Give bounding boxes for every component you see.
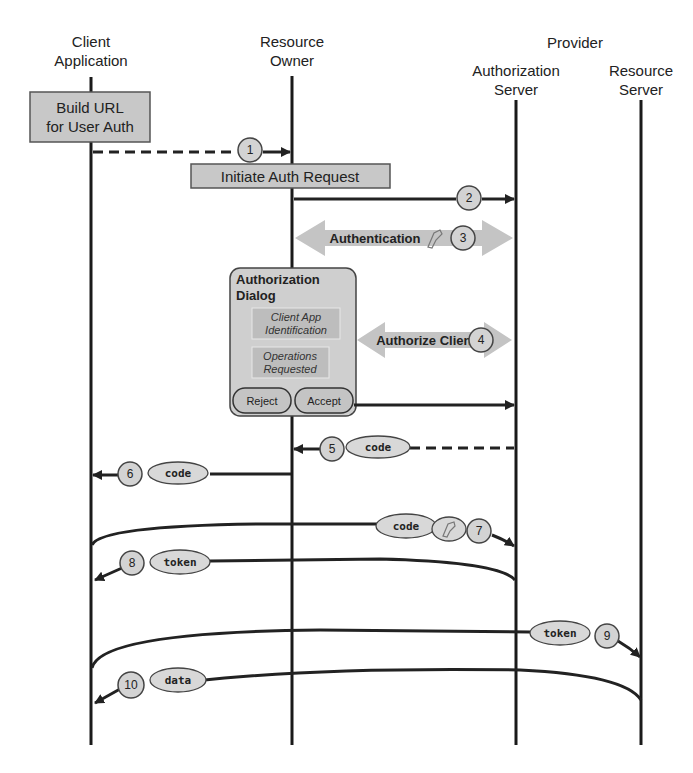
step-6-arrow: 6 code — [93, 462, 291, 486]
payload-code: code — [365, 441, 392, 454]
svg-text:Authentication: Authentication — [330, 231, 421, 246]
step-number: 10 — [124, 678, 138, 692]
step-9-arrow: token 9 — [92, 621, 640, 668]
participant-client-line2: Application — [54, 52, 127, 69]
participant-owner-line1: Resource — [260, 33, 324, 50]
reject-button-label: Reject — [246, 395, 277, 407]
activity-initiate-auth: Initiate Auth Request — [191, 164, 390, 188]
payload-code: code — [393, 520, 420, 533]
dialog-title-line1: Authorization — [236, 272, 320, 287]
accept-button-label: Accept — [307, 395, 341, 407]
field-client-app-line2: Identification — [265, 324, 327, 336]
step-number: 2 — [466, 191, 473, 205]
step-number: 9 — [604, 629, 611, 643]
step-10-arrow: 10 data — [95, 668, 641, 703]
payload-data: data — [165, 674, 192, 687]
svg-text:Authorize Client: Authorize Client — [376, 333, 476, 348]
svg-text:for User Auth: for User Auth — [46, 118, 134, 135]
svg-text:Initiate Auth Request: Initiate Auth Request — [221, 168, 360, 185]
svg-text:Build URL: Build URL — [56, 99, 124, 116]
payload-code: code — [165, 467, 192, 480]
participant-authserver-line1: Authorization — [472, 62, 560, 79]
dialog-title-line2: Dialog — [236, 288, 276, 303]
step-number: 7 — [476, 524, 483, 538]
payload-token: token — [543, 627, 576, 640]
oauth-sequence-diagram: Client Application Resource Owner Provid… — [0, 0, 693, 773]
step-number: 3 — [460, 231, 467, 245]
step-number: 6 — [127, 467, 134, 481]
activity-build-url: Build URL for User Auth — [30, 92, 150, 142]
participant-authserver-line2: Server — [494, 81, 538, 98]
step-number: 8 — [129, 556, 136, 570]
participant-owner-line2: Owner — [270, 52, 314, 69]
step-number: 1 — [247, 143, 254, 157]
payload-token: token — [163, 556, 196, 569]
field-operations-line1: Operations — [263, 350, 317, 362]
participant-client-line1: Client — [72, 33, 111, 50]
step-number: 4 — [478, 333, 485, 347]
provider-group-label: Provider — [547, 34, 603, 51]
field-operations-line2: Requested — [263, 363, 317, 375]
step-4-authorize-client: Authorize Client 4 — [357, 322, 512, 358]
authorization-dialog: Authorization Dialog Client App Identifi… — [230, 268, 356, 416]
participant-resserver-line1: Resource — [609, 62, 673, 79]
step-7-arrow: code 7 — [92, 514, 514, 546]
step-8-arrow: 8 token — [95, 550, 515, 580]
field-client-app-line1: Client App — [271, 311, 321, 323]
step-2-arrow: 2 — [294, 186, 514, 210]
step-number: 5 — [329, 442, 336, 456]
step-3-authentication: Authentication 3 — [295, 220, 513, 256]
step-5-arrow: 5 code — [294, 436, 514, 461]
participant-resserver-line2: Server — [619, 81, 663, 98]
